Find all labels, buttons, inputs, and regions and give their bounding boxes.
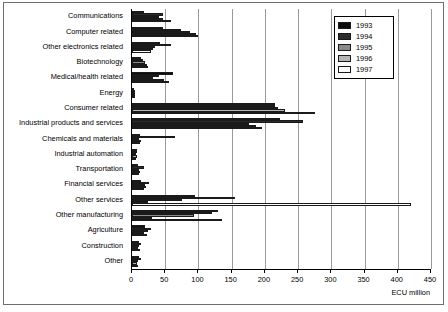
category-label: Industrial products and services	[19, 119, 123, 127]
x-tick-label: 400	[382, 275, 412, 284]
x-tick-label: 450	[415, 275, 445, 284]
x-tick-450	[430, 269, 431, 273]
legend-swatch	[338, 22, 351, 29]
x-tick-label: 300	[315, 275, 345, 284]
bar	[132, 96, 135, 98]
bar	[132, 158, 136, 160]
x-tick-150	[231, 269, 232, 273]
bar	[132, 35, 198, 37]
category-label: Other electronics related	[42, 43, 123, 51]
bar	[132, 249, 140, 251]
category-label: Other	[105, 257, 123, 265]
category-label: Financial services	[64, 180, 123, 188]
chart-figure: CommunicationsComputer relatedOther elec…	[0, 0, 448, 312]
x-tick-250	[297, 269, 298, 273]
x-tick-label: 250	[282, 275, 312, 284]
legend-item: 1994	[338, 31, 390, 42]
bar	[132, 20, 171, 22]
category-label: Communications	[68, 12, 123, 20]
x-tick-label: 100	[182, 275, 212, 284]
category-label: Agriculture	[88, 226, 123, 234]
legend-swatch	[338, 66, 351, 73]
category-label: Chemicals and materials	[42, 135, 123, 143]
category-label: Medical/health related	[51, 73, 123, 81]
bar-group	[132, 101, 430, 116]
bar-group	[132, 162, 430, 177]
bar-group	[132, 193, 430, 208]
bar-group	[132, 116, 430, 131]
bar	[132, 219, 222, 221]
bar-group	[132, 254, 430, 269]
x-tick-300	[330, 269, 331, 273]
x-axis-title: ECU million	[391, 288, 430, 297]
legend-label: 1994	[356, 33, 372, 41]
legend-swatch	[338, 44, 351, 51]
legend-swatch	[338, 33, 351, 40]
x-tick-label: 50	[149, 275, 179, 284]
gridline-450	[431, 9, 432, 269]
bar	[132, 81, 169, 83]
x-tick-0	[131, 269, 132, 273]
category-label: Industrial automation	[54, 150, 123, 158]
bar	[132, 203, 411, 205]
category-label: Energy	[100, 89, 123, 97]
bar	[132, 234, 147, 236]
x-tick-350	[364, 269, 365, 273]
legend-item: 1995	[338, 42, 390, 53]
bar-group	[132, 208, 430, 223]
bar-group	[132, 238, 430, 253]
x-tick-label: 0	[116, 275, 146, 284]
legend-item: 1997	[338, 64, 390, 75]
x-tick-400	[397, 269, 398, 273]
legend-label: 1995	[356, 44, 372, 52]
x-axis-line	[131, 269, 430, 270]
x-tick-100	[197, 269, 198, 273]
bar-group	[132, 223, 430, 238]
bar	[132, 112, 315, 114]
category-label: Other manufacturing	[56, 211, 123, 219]
bar	[132, 188, 144, 190]
category-label: Transportation	[76, 165, 123, 173]
legend: 19931994199519961997	[334, 16, 394, 79]
x-tick-200	[264, 269, 265, 273]
legend-label: 1996	[356, 55, 372, 63]
category-label: Other services	[75, 196, 123, 204]
category-axis-labels: CommunicationsComputer relatedOther elec…	[4, 9, 127, 269]
bar	[132, 173, 139, 175]
category-label: Construction	[82, 242, 124, 250]
bar	[132, 265, 138, 267]
legend-label: 1997	[356, 66, 372, 74]
bar-group	[132, 131, 430, 146]
x-tick-label: 350	[349, 275, 379, 284]
x-tick-label: 200	[249, 275, 279, 284]
x-tick-50	[164, 269, 165, 273]
legend-item: 1996	[338, 53, 390, 64]
bar	[132, 66, 148, 68]
legend-item: 1993	[338, 20, 390, 31]
bar	[132, 50, 151, 52]
bar-group	[132, 177, 430, 192]
bar	[132, 142, 140, 144]
legend-label: 1993	[356, 22, 372, 30]
bar	[132, 127, 262, 129]
category-label: Consumer related	[64, 104, 123, 112]
x-tick-label: 150	[216, 275, 246, 284]
bar-group	[132, 85, 430, 100]
bar-group	[132, 147, 430, 162]
category-label: Biotechnology	[77, 58, 123, 66]
legend-swatch	[338, 55, 351, 62]
category-label: Computer related	[66, 28, 123, 36]
